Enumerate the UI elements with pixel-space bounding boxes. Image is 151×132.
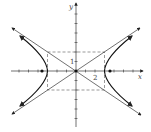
x-axis-label: x	[138, 73, 142, 81]
hyperbola-diagram: y x 2 1	[0, 0, 151, 132]
y-tick-label: 1	[70, 58, 74, 66]
x-tick-label: 2	[93, 74, 97, 82]
left-focus-dot	[40, 69, 43, 72]
y-axis-label: y	[68, 3, 74, 11]
y-axis	[75, 3, 78, 127]
right-focus-dot	[108, 69, 111, 72]
center-dot	[74, 69, 77, 72]
